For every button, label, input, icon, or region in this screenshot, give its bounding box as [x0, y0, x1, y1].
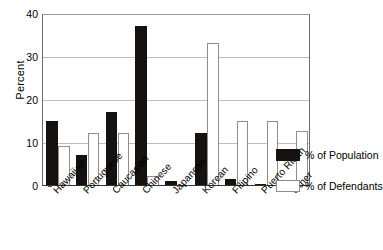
- legend-label-defendants: % of Defendants: [305, 180, 383, 192]
- legend-swatch-population-icon: [276, 149, 300, 161]
- x-axis-labels: HawaiianPortugueseCaucasianChineseJapane…: [42, 188, 310, 250]
- chart-legend: % of Population % of Defendants: [276, 144, 380, 206]
- y-axis-ticks: 40 30 20 10 0: [10, 0, 38, 250]
- bars-layer: [43, 14, 309, 185]
- legend-swatch-defendants-icon: [276, 180, 300, 192]
- y-tick-label-10: 10: [16, 138, 38, 148]
- y-tick-label-20: 20: [16, 95, 38, 105]
- y-tick-label-30: 30: [16, 52, 38, 62]
- bar-group: [165, 14, 189, 185]
- bar-group: [255, 14, 279, 185]
- bar-defendants: [207, 43, 219, 185]
- legend-item-defendants: % of Defendants: [276, 175, 380, 197]
- legend-item-population: % of Population: [276, 144, 380, 166]
- bar-group: [225, 14, 249, 185]
- bar-population: [46, 121, 58, 186]
- y-tick-label-0: 0: [16, 181, 38, 191]
- y-tick-label-40: 40: [16, 9, 38, 19]
- legend-label-population: % of Population: [305, 149, 379, 161]
- bar-group: [46, 14, 70, 185]
